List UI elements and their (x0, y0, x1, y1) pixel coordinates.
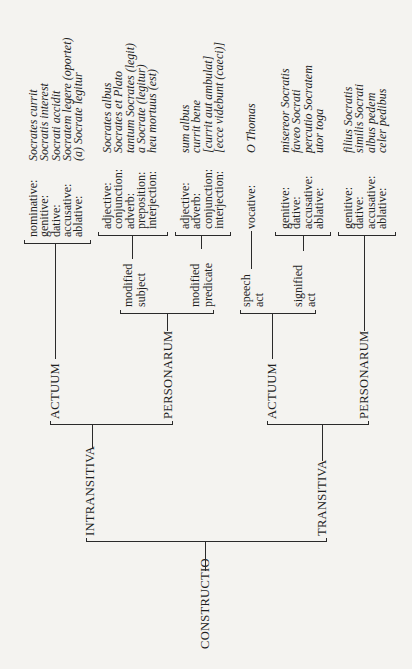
bracket-tick (120, 310, 121, 314)
label-line: signified (292, 265, 305, 307)
bracket-tick (172, 421, 173, 425)
modified-subject-label: modified subject (122, 264, 148, 307)
transitiva-personarum-cases: genitive:filius Socratis dative:similis … (343, 84, 388, 229)
bracket-tick (50, 421, 51, 425)
example-text: heu mortuus (est) (147, 69, 158, 153)
label-line: modified (122, 264, 135, 307)
bracket-tick (213, 310, 214, 314)
bracket-tick (98, 232, 99, 236)
case-label: ablative: (377, 153, 388, 229)
speech-act-label: speech act (240, 274, 266, 307)
case-label: interjection: (147, 153, 158, 229)
case-row: ablative:celer pedibus (377, 84, 388, 229)
case-label: vocative: (246, 153, 257, 229)
bracket-tick (90, 240, 91, 244)
transitiva-label: TRANSITIVA (316, 460, 329, 536)
bracket-tick (315, 310, 316, 314)
transitiva-actuum-label: ACTUUM (266, 363, 279, 419)
intransitiva-personarum-label: PERSONARUM (162, 331, 175, 419)
example-text: celer pedibus (377, 89, 388, 153)
label-line: subject (135, 264, 148, 307)
case-label: interjection: (214, 153, 225, 229)
grammar-tree-diagram: CONSTRUCTIO INTRANSITIVA TRANSITIVA ACTU… (0, 0, 412, 669)
bracket-tick (368, 421, 369, 425)
modified-predicate-cases: adjective:sum albus adverb:currit bene c… (180, 42, 225, 229)
bracket (275, 235, 331, 236)
bracket-tick (240, 310, 241, 314)
bracket (338, 235, 396, 236)
case-row: interjection:heu mortuus (est) (147, 43, 158, 229)
example-text: utor toga (314, 109, 325, 153)
transitiva-personarum-label: PERSONARUM (358, 331, 371, 419)
bracket-tick (275, 232, 276, 236)
modified-predicate-label: modified predicate (189, 263, 215, 307)
label-line: predicate (202, 263, 215, 307)
bracket-tick (175, 232, 176, 236)
intransitiva-label: INTRANSITIVA (84, 446, 97, 536)
label-line: speech (240, 274, 253, 307)
case-row: ablative:(a) Socrate legitur (73, 37, 84, 237)
intransitiva-actuum-cases: nominative:Socrates currit genitive:Socr… (28, 37, 84, 237)
bracket (86, 541, 327, 542)
bracket (50, 424, 173, 425)
case-label: ablative: (73, 161, 84, 237)
connector (364, 235, 365, 331)
bracket-tick (395, 232, 396, 236)
label-line: act (253, 274, 266, 307)
bracket-tick (230, 232, 231, 236)
bracket (240, 313, 316, 314)
connector (322, 424, 323, 461)
connector (303, 235, 304, 251)
bracket (267, 424, 369, 425)
connector (132, 235, 133, 259)
bracket (24, 243, 91, 244)
case-row: vocative:O Thomas (246, 103, 257, 229)
connector (201, 235, 202, 249)
bracket-tick (24, 240, 25, 244)
bracket-tick (326, 538, 327, 542)
connector (272, 313, 273, 359)
label-line: act (305, 265, 318, 307)
bracket-tick (267, 421, 268, 425)
case-row: interjection:[ecce videbunt (caeci)] (214, 42, 225, 229)
bracket (175, 235, 231, 236)
signified-act-label: signified act (292, 265, 318, 307)
modified-subject-cases: adjective:Socrates albus conjunction:Soc… (102, 43, 158, 229)
signified-act-cases: genitive:misereor Socratis dative:faveo … (280, 65, 325, 229)
connector (92, 424, 93, 449)
bracket (120, 313, 214, 314)
connector (167, 313, 168, 331)
intransitiva-actuum-label: ACTUUM (49, 363, 62, 419)
bracket-tick (86, 538, 87, 542)
connector (55, 243, 56, 359)
connector (251, 231, 252, 269)
bracket (98, 235, 168, 236)
speech-act-cases: vocative:O Thomas (246, 103, 257, 229)
label-line: modified (189, 263, 202, 307)
root-label: CONSTRUCTIO (199, 558, 212, 649)
case-label: ablative: (314, 153, 325, 229)
bracket-tick (167, 232, 168, 236)
example-text: O Thomas (246, 103, 257, 153)
bracket-tick (338, 232, 339, 236)
connector (205, 541, 206, 571)
example-text: [ecce videbunt (caeci)] (214, 42, 225, 153)
example-text: (a) Socrate legitur (73, 72, 84, 161)
case-row: ablative:utor toga (314, 65, 325, 229)
bracket-tick (330, 232, 331, 236)
